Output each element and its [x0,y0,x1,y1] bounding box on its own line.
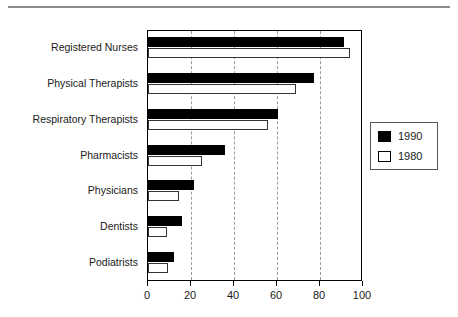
bar-1990 [148,73,314,83]
x-tick-100 [362,281,363,286]
x-tick-label: 60 [256,289,296,301]
chart-legend: 1990 1980 [370,122,438,170]
x-tick-label: 0 [127,289,167,301]
bar-group [148,210,361,246]
category-label: Pharmacists [0,149,138,161]
legend-swatch-icon-1990 [378,131,391,142]
legend-label-1980: 1980 [398,151,422,162]
category-label: Physicians [0,184,138,196]
x-tick-60 [276,281,277,286]
bar-1990 [148,37,344,47]
legend-entry-1980: 1980 [378,149,422,163]
top-divider-rule [8,6,450,8]
bar-group [148,174,361,210]
category-label: Dentists [0,220,138,232]
bar-group [148,246,361,282]
bar-group [148,139,361,175]
bar-1980 [148,84,296,94]
bar-group [148,31,361,67]
x-tick-20 [190,281,191,286]
x-axis: 020406080100 [147,281,362,311]
legend-entry-1990: 1990 [378,129,422,143]
bar-1980 [148,227,167,237]
x-tick-0 [147,281,148,286]
bar-1980 [148,191,179,201]
bar-group [148,67,361,103]
category-label: Physical Therapists [0,77,138,89]
bar-1990 [148,216,182,226]
x-tick-label: 20 [170,289,210,301]
bar-1990 [148,109,278,119]
plot-area [147,30,362,281]
bar-group [148,103,361,139]
bar-1980 [148,263,168,273]
category-axis-labels: Registered NursesPhysical TherapistsResp… [0,30,142,281]
category-label: Podiatrists [0,256,138,268]
category-label: Registered Nurses [0,41,138,53]
bar-chart-figure: Registered NursesPhysical TherapistsResp… [0,0,458,317]
category-label: Respiratory Therapists [0,113,138,125]
bar-1990 [148,252,174,262]
x-tick-label: 40 [213,289,253,301]
x-tick-40 [233,281,234,286]
x-tick-label: 100 [342,289,382,301]
bar-1980 [148,48,350,58]
bar-1980 [148,120,268,130]
legend-label-1990: 1990 [398,131,422,142]
bar-1990 [148,180,194,190]
x-tick-label: 80 [299,289,339,301]
x-tick-80 [319,281,320,286]
bar-1990 [148,145,225,155]
bar-1980 [148,156,202,166]
legend-swatch-icon-1980 [378,151,391,162]
